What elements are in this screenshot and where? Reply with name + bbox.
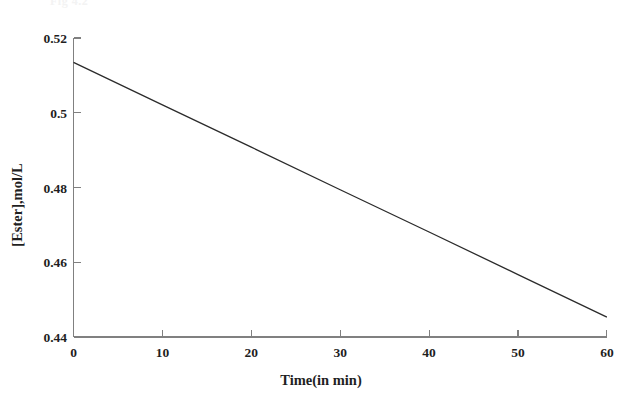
- x-tick-label: 10: [156, 345, 170, 360]
- y-axis-ticks: [74, 38, 82, 337]
- y-tick-label: 0.5: [50, 106, 67, 121]
- x-axis-tick-labels: 0 10 20 30 40 50 60: [70, 345, 614, 360]
- data-series-line: [74, 62, 607, 317]
- x-axis-title: Time(in min): [280, 372, 362, 389]
- y-axis-title: [Ester],mol/L: [9, 163, 25, 247]
- x-axis-ticks: [74, 330, 607, 337]
- x-tick-label: 0: [70, 345, 77, 360]
- x-tick-label: 30: [333, 345, 347, 360]
- y-tick-label: 0.44: [43, 330, 67, 345]
- y-tick-label: 0.46: [43, 255, 67, 270]
- x-tick-label: 40: [422, 345, 436, 360]
- x-tick-label: 60: [600, 345, 614, 360]
- y-axis-tick-labels: 0.52 0.5 0.48 0.46 0.44: [43, 31, 67, 345]
- y-tick-label: 0.52: [43, 31, 67, 46]
- y-tick-label: 0.48: [43, 181, 67, 196]
- x-tick-label: 50: [511, 345, 525, 360]
- chart-figure: Fig 4.2 0.52 0.5 0.48 0.: [0, 0, 628, 402]
- x-tick-label: 20: [245, 345, 259, 360]
- line-chart-canvas: 0.52 0.5 0.48 0.46 0.44 0 10 20 30 40 50…: [0, 0, 628, 402]
